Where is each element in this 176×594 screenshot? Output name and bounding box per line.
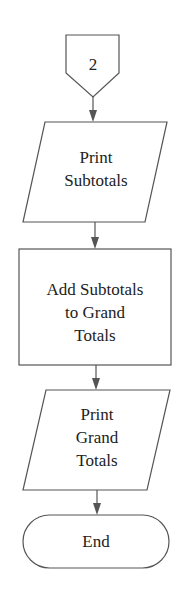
off-page-connector: 2 (66, 35, 119, 97)
node-text-line: Add Subtotals (47, 280, 144, 299)
add-subtotals-node: Add Subtotals to Grand Totals (19, 249, 171, 365)
end-node: End (23, 515, 169, 568)
node-text-line: Grand (76, 428, 119, 447)
node-text-line: End (82, 532, 110, 551)
connector-label: 2 (89, 55, 98, 74)
node-text-line: Print (80, 405, 113, 424)
node-text-line: Totals (74, 326, 115, 345)
node-text-line: Subtotals (64, 171, 127, 190)
node-text-line: Print (79, 148, 112, 167)
node-text-line: Totals (76, 451, 117, 470)
arrow-1 (89, 97, 97, 122)
arrow-2 (91, 222, 99, 249)
arrow-4 (93, 490, 101, 515)
flowchart: 2 Print Subtotals Add Subtotals to Grand… (0, 0, 176, 594)
node-text-line: to Grand (65, 303, 125, 322)
print-subtotals-node: Print Subtotals (23, 122, 167, 222)
arrow-3 (92, 365, 100, 390)
print-grand-totals-node: Print Grand Totals (23, 390, 170, 490)
